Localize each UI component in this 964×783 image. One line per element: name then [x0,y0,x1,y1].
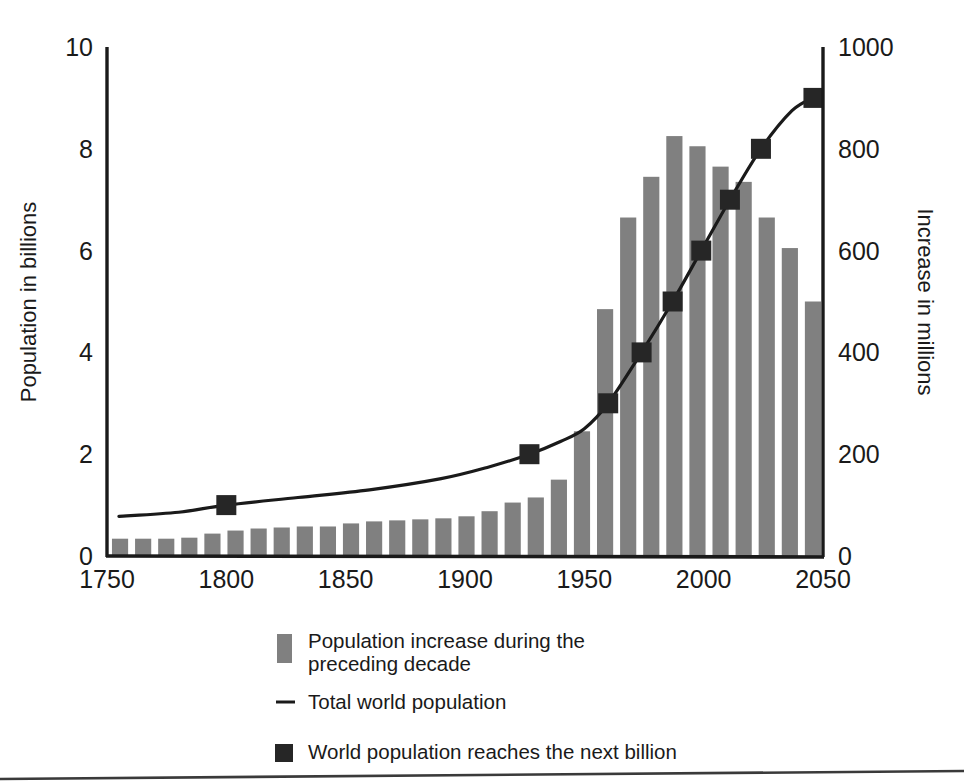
right-axis-title: Increase in millions [913,208,938,395]
left-axis-title: Population in billions [16,202,41,403]
bar [181,538,197,556]
legend-item-1-line-1: Population increase during the [308,629,585,652]
bar [274,528,290,557]
y2-tick-label: 1000 [838,33,894,61]
y-tick-label: 6 [79,237,93,265]
x-tick-label: 2050 [795,565,851,593]
bar [435,518,451,556]
milestone-marker [632,342,652,362]
milestone-marker [216,495,236,515]
y2-tick-label: 400 [838,338,880,366]
y-tick-label: 2 [79,440,93,468]
population-chart: 0246810 02004006008001000 17501800185019… [0,0,964,783]
bar [805,302,821,557]
y2-tick-label: 200 [838,440,880,468]
x-tick-label: 1950 [557,565,613,593]
bar [505,503,521,556]
legend-item-3-line-1: World population reaches the next billio… [308,740,677,763]
legend-bar-swatch-icon [277,634,292,663]
bottom-axis-line [106,556,824,557]
milestone-marker [751,139,771,159]
milestone-marker [803,88,823,108]
bar [528,497,544,556]
x-tick-label: 2000 [676,565,732,593]
bar [412,519,428,556]
bar [782,248,798,556]
bar [204,534,220,556]
bar [597,309,613,556]
chart-figure: 0246810 02004006008001000 17501800185019… [0,0,964,783]
bar [620,218,636,556]
milestone-marker [720,190,740,210]
bar [366,521,382,556]
milestone-marker [519,444,539,464]
legend-item-2-line-1: Total world population [308,690,506,713]
x-tick-label: 1750 [79,565,135,593]
bar [320,526,336,556]
bar [574,431,590,556]
bar [135,539,151,556]
bar [551,480,567,556]
bar [666,136,682,556]
milestone-marker [663,292,683,312]
bar [689,146,705,556]
bar [736,182,752,556]
y2-tick-label: 600 [838,237,880,265]
y-tick-label: 8 [79,135,93,163]
x-tick-label: 1850 [318,565,374,593]
bar [112,539,128,556]
bar [389,520,405,556]
legend-square-swatch-icon [275,744,293,762]
bar [759,218,775,556]
y2-tick-label: 800 [838,135,880,163]
milestone-marker [691,241,711,261]
bar [227,531,243,556]
bar [643,177,659,556]
bar [251,529,267,556]
y-tick-label: 10 [65,33,93,61]
bar [158,539,174,556]
x-tick-label: 1800 [199,565,255,593]
x-tick-label: 1900 [437,565,493,593]
legend-item-1-line-2: preceding decade [308,652,471,675]
bar [482,511,498,556]
y-tick-label: 4 [79,338,93,366]
bar [343,523,359,556]
bar [458,516,474,556]
milestone-marker [598,393,618,413]
bar [297,526,313,556]
